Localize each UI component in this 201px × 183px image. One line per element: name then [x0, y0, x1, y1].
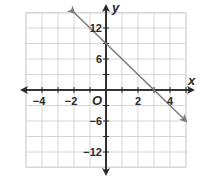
x-tick-label: 4 — [167, 95, 174, 107]
x-tick-label: −4 — [33, 95, 46, 107]
y-tick-label: 12 — [90, 22, 102, 34]
y-tick-label: −6 — [89, 115, 102, 127]
x-tick-label: 2 — [135, 95, 141, 107]
origin-label: O — [92, 93, 102, 108]
coordinate-plane: −4−224 126−6−12 x y O — [0, 0, 201, 183]
y-axis-label: y — [111, 0, 120, 15]
x-tick-label: −2 — [65, 95, 78, 107]
y-tick-label: 6 — [96, 53, 102, 65]
y-tick-label: −12 — [83, 146, 102, 158]
x-axis-label: x — [187, 73, 196, 88]
